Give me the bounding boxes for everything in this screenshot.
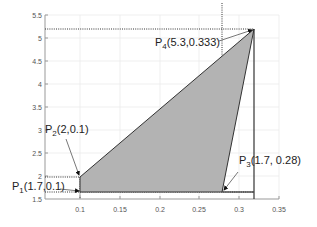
- annotation-p1: P1(1.7,0.1): [12, 180, 65, 195]
- svg-text:0.2: 0.2: [155, 206, 165, 213]
- svg-text:5.5: 5.5: [32, 12, 42, 19]
- chart: 5.5 5 4.5 4 3.5 3 2.5 2 1.5 0.1 0.15 0.2…: [0, 0, 317, 227]
- svg-text:P3(1.7, 0.28): P3(1.7, 0.28): [239, 154, 301, 169]
- svg-text:0.1: 0.1: [75, 206, 85, 213]
- p3-arrow: [224, 172, 238, 190]
- svg-text:2.5: 2.5: [32, 150, 42, 157]
- svg-text:4: 4: [38, 81, 42, 88]
- svg-text:0.35: 0.35: [272, 206, 286, 213]
- y-tick-labels: 5.5 5 4.5 4 3.5 3 2.5 2 1.5: [32, 12, 42, 203]
- svg-text:3: 3: [38, 127, 42, 134]
- svg-text:P1(1.7,0.1): P1(1.7,0.1): [12, 180, 65, 195]
- svg-text:0.15: 0.15: [113, 206, 127, 213]
- svg-text:5: 5: [38, 35, 42, 42]
- x-tick-labels: 0.1 0.15 0.2 0.25 0.3 0.35: [75, 206, 286, 213]
- svg-text:2: 2: [38, 173, 42, 180]
- svg-text:0.3: 0.3: [234, 206, 244, 213]
- svg-text:3.5: 3.5: [32, 104, 42, 111]
- feasible-region: [80, 29, 254, 192]
- svg-text:4.5: 4.5: [32, 58, 42, 65]
- annotation-p3: P3(1.7, 0.28): [239, 154, 301, 169]
- annotation-p2: P2(2,0.1): [45, 123, 89, 138]
- svg-text:0.25: 0.25: [192, 206, 206, 213]
- svg-text:P2(2,0.1): P2(2,0.1): [45, 123, 89, 138]
- p2-arrow: [66, 139, 79, 175]
- svg-text:1.5: 1.5: [32, 196, 42, 203]
